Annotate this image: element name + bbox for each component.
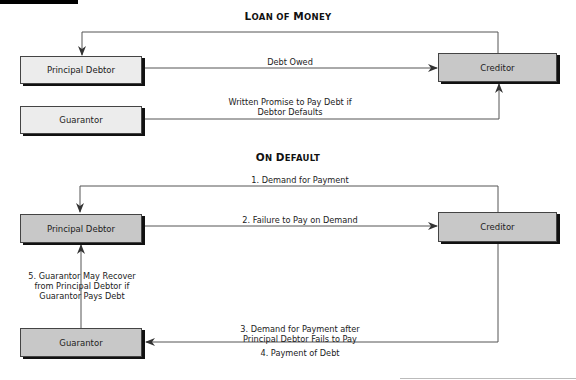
node-label: Creditor: [480, 222, 514, 232]
edge-label-demand-for-payment: 1. Demand for Payment: [230, 175, 370, 185]
edge-label-demand-after-1: 3. Demand for Payment after: [210, 324, 390, 334]
section-title-on-default: ON DEFAULT: [0, 151, 576, 163]
node-guarantor-loan: Guarantor: [20, 106, 142, 134]
title-smallcaps: ONEY: [304, 12, 332, 22]
edge-label-written-promise-1: Written Promise to Pay Debt if: [200, 97, 380, 107]
node-principal-debtor-default: Principal Debtor: [20, 214, 142, 243]
edge-demand-for-payment: [80, 186, 498, 212]
node-creditor-default: Creditor: [438, 212, 557, 242]
edge-label-written-promise-2: Debtor Defaults: [200, 107, 380, 117]
node-label: Creditor: [480, 63, 514, 73]
edge-label-payment-of-debt: 4. Payment of Debt: [230, 348, 370, 358]
title-cap: M: [293, 10, 304, 22]
edge-label-demand-after-2: Principal Debtor Fails to Pay: [210, 334, 390, 344]
title-smallcaps: N: [265, 153, 276, 163]
node-label: Guarantor: [59, 338, 102, 348]
title-cap: D: [276, 151, 285, 163]
node-principal-debtor-loan: Principal Debtor: [20, 56, 142, 84]
edge-creditor-to-debtor-loop: [82, 32, 498, 55]
title-cap: O: [256, 151, 265, 163]
title-smallcaps: EFAULT: [285, 153, 320, 163]
edge-label-failure-to-pay: 2. Failure to Pay on Demand: [220, 215, 380, 225]
edge-label-debt-owed: Debt Owed: [240, 57, 340, 67]
node-creditor-loan: Creditor: [438, 53, 557, 82]
edge-label-recover-3: Guarantor Pays Debt: [12, 291, 152, 301]
bottom-divider: [400, 378, 576, 379]
edge-label-recover-1: 5. Guarantor May Recover: [12, 271, 152, 281]
title-smallcaps: OAN OF: [251, 12, 293, 22]
edge-label-recover-2: from Principal Debtor if: [12, 281, 152, 291]
node-label: Principal Debtor: [47, 224, 115, 234]
section-title-loan-of-money: LOAN OF MONEY: [0, 10, 576, 22]
node-guarantor-default: Guarantor: [20, 328, 142, 357]
node-label: Guarantor: [59, 115, 102, 125]
node-label: Principal Debtor: [47, 65, 115, 75]
